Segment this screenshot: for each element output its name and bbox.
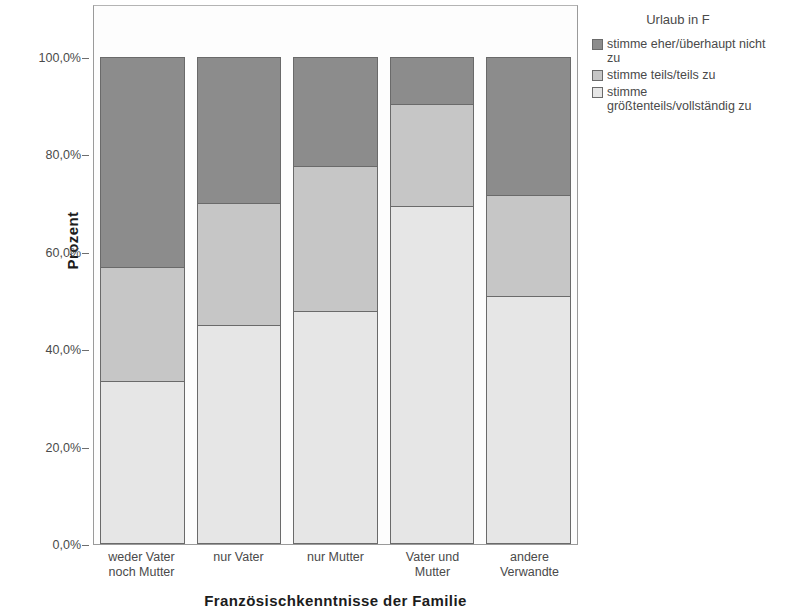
y-axis-tick-label: 60,0% <box>46 246 81 260</box>
x-axis-tick-label: Vater undMutter <box>386 550 478 594</box>
legend-swatch <box>592 70 603 81</box>
x-axis-tick-label: nur Vater <box>192 550 284 594</box>
legend-label: stimme teils/teils zu <box>607 68 715 82</box>
x-axis-title: Französischkenntnisse der Familie <box>93 592 578 609</box>
plot-area <box>93 5 578 545</box>
legend-title: Urlaub in F <box>588 12 786 27</box>
bar-segment[interactable] <box>390 57 475 104</box>
bar-segment[interactable] <box>197 57 282 203</box>
y-axis-tick-mark <box>82 545 89 546</box>
bar-segment[interactable] <box>486 195 571 296</box>
legend-label: stimme eher/überhaupt nichtzu <box>607 37 765 65</box>
y-axis-tick-label: 0,0% <box>53 538 82 552</box>
bar-segment[interactable] <box>100 267 185 381</box>
bar-segment[interactable] <box>486 57 571 195</box>
y-axis-tick-mark <box>82 253 89 254</box>
bar-segment[interactable] <box>390 104 475 206</box>
x-axis-tick-label: nur Mutter <box>289 550 381 594</box>
legend-swatch <box>592 87 603 98</box>
bar-segment[interactable] <box>197 203 282 325</box>
bar-segment[interactable] <box>293 311 378 544</box>
y-axis-tick-label: 80,0% <box>46 148 81 162</box>
bar-segment[interactable] <box>390 206 475 544</box>
y-axis-tick-mark <box>82 350 89 351</box>
bar-segment[interactable] <box>486 296 571 544</box>
bar-column[interactable] <box>486 57 571 544</box>
y-axis-tick-label: 100,0% <box>39 51 81 65</box>
bar-segment[interactable] <box>100 381 185 544</box>
legend-swatch <box>592 39 603 50</box>
bar-column[interactable] <box>197 57 282 544</box>
legend-items: stimme eher/überhaupt nichtzustimme teil… <box>588 37 786 113</box>
bar-column[interactable] <box>390 57 475 544</box>
legend-item[interactable]: stimmegrößtenteils/vollständig zu <box>588 85 786 113</box>
legend: Urlaub in F stimme eher/überhaupt nichtz… <box>588 6 786 116</box>
y-axis-tick-mark <box>82 448 89 449</box>
legend-item[interactable]: stimme eher/überhaupt nichtzu <box>588 37 786 65</box>
y-axis-tick-mark <box>82 58 89 59</box>
bar-segment[interactable] <box>293 166 378 311</box>
bar-column[interactable] <box>100 57 185 544</box>
stacked-bar-chart: Prozent 100,0%80,0%60,0%40,0%20,0%0,0% w… <box>0 0 788 612</box>
x-axis-tick-label: andereVerwandte <box>483 550 575 594</box>
legend-item[interactable]: stimme teils/teils zu <box>588 68 786 82</box>
y-axis-tick-mark <box>82 155 89 156</box>
bar-segment[interactable] <box>100 57 185 267</box>
legend-label: stimmegrößtenteils/vollständig zu <box>607 85 752 113</box>
x-axis-tick-labels: weder Vaternoch Mutternur Vaternur Mutte… <box>93 550 578 594</box>
bar-segment[interactable] <box>293 57 378 166</box>
bars-layer <box>94 57 577 544</box>
bar-segment[interactable] <box>197 325 282 544</box>
y-axis-tick-label: 20,0% <box>46 441 81 455</box>
x-axis-tick-label: weder Vaternoch Mutter <box>95 550 187 594</box>
y-axis-ticks: 100,0%80,0%60,0%40,0%20,0%0,0% <box>0 0 93 612</box>
y-axis-tick-label: 40,0% <box>46 343 81 357</box>
bar-column[interactable] <box>293 57 378 544</box>
